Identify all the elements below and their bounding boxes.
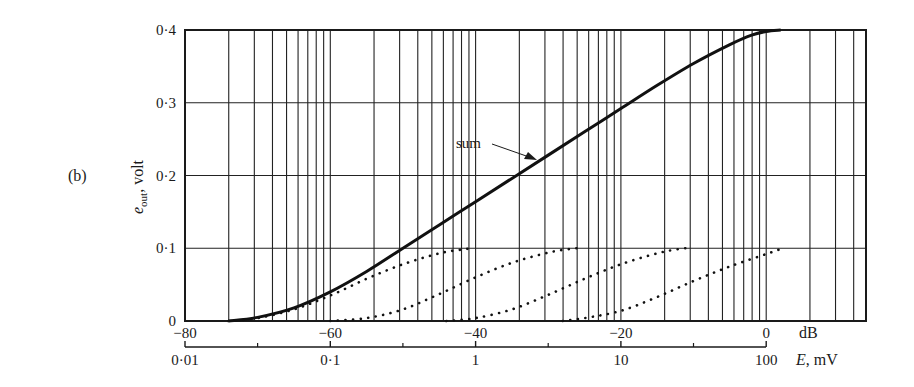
x-tick-label-db: −60 xyxy=(319,325,342,341)
x-tick-label-db: −20 xyxy=(609,325,632,341)
y-tick-label: 0·4 xyxy=(156,22,176,38)
horizontal-gridlines xyxy=(185,103,866,249)
stage-curve xyxy=(563,248,783,321)
x-tick-labels-db: −80−60−40−200 xyxy=(173,325,770,341)
stage-curve xyxy=(229,248,472,321)
x-tick-label-mv: 100 xyxy=(755,352,778,368)
y-tick-label: 0·3 xyxy=(156,95,176,111)
x-axis-unit-mv: E, mV xyxy=(795,351,838,368)
y-axis-title: eout, volt xyxy=(129,159,149,214)
sum-annotation-label: sum xyxy=(456,135,481,151)
x-tick-label-db: 0 xyxy=(762,325,770,341)
panel-label: (b) xyxy=(68,167,87,185)
x-tick-labels-mv: 0·010·1110100 xyxy=(171,352,777,368)
x-tick-label-mv: 10 xyxy=(613,352,628,368)
x-axis-unit-db: dB xyxy=(799,324,818,341)
y-tick-label: 0·1 xyxy=(156,240,176,256)
x-tick-label-mv: 0·01 xyxy=(171,352,199,368)
x-ticks-mv xyxy=(185,341,766,347)
arrowhead-icon xyxy=(524,152,537,160)
y-tick-labels: 00·10·20·30·4 xyxy=(156,22,176,329)
x-tick-label-db: −80 xyxy=(173,325,196,341)
stage-curve xyxy=(330,248,577,321)
log-amplifier-chart: 00·10·20·30·4 (b) eout, volt −80−60−40−2… xyxy=(0,0,914,387)
y-tick-label: 0·2 xyxy=(156,168,176,184)
x-tick-label-mv: 0·1 xyxy=(320,352,340,368)
stage-curve xyxy=(447,248,687,321)
x-tick-label-mv: 1 xyxy=(472,352,480,368)
x-tick-label-db: −40 xyxy=(464,325,487,341)
